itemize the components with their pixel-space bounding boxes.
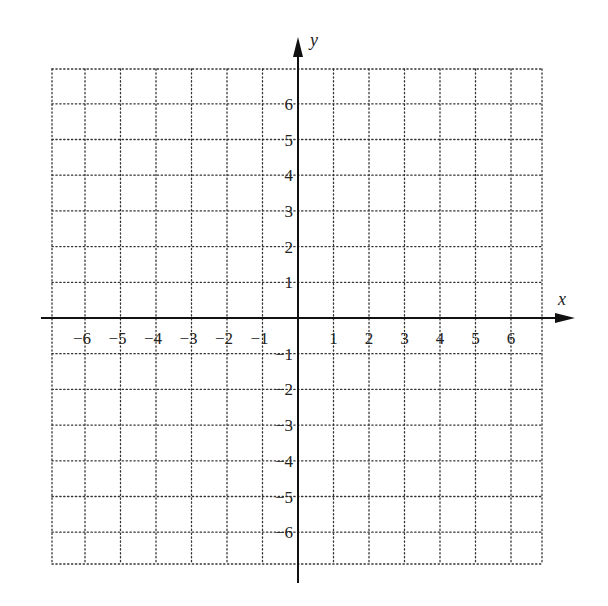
y-tick-label: −5 bbox=[275, 488, 293, 507]
x-tick-label: −2 bbox=[215, 329, 233, 348]
x-tick-labels: −6−5−4−3−2−1123456 bbox=[73, 329, 515, 348]
y-axis-arrow-icon bbox=[293, 37, 303, 57]
x-tick-label: −4 bbox=[144, 329, 163, 348]
x-axis-label: x bbox=[557, 289, 566, 309]
x-axis-arrow-icon bbox=[555, 313, 575, 323]
x-tick-label: −5 bbox=[108, 329, 126, 348]
coordinate-plane: −6−5−4−3−2−1123456 654321−1−2−3−4−5−6 x … bbox=[0, 0, 608, 606]
x-tick-label: 2 bbox=[365, 329, 374, 348]
x-tick-label: 5 bbox=[471, 329, 480, 348]
y-tick-label: 5 bbox=[285, 131, 294, 150]
y-tick-label: 3 bbox=[285, 202, 294, 221]
y-tick-label: −3 bbox=[275, 416, 293, 435]
x-tick-label: −1 bbox=[250, 329, 268, 348]
y-tick-label: 2 bbox=[285, 238, 294, 257]
x-tick-label: 6 bbox=[507, 329, 516, 348]
x-tick-label: 3 bbox=[400, 329, 409, 348]
y-tick-label: 4 bbox=[285, 166, 294, 185]
y-tick-label: −1 bbox=[275, 345, 293, 364]
y-tick-label: 1 bbox=[285, 273, 294, 292]
x-tick-label: 1 bbox=[329, 329, 338, 348]
x-tick-label: −6 bbox=[73, 329, 91, 348]
axes bbox=[41, 37, 575, 583]
y-axis-label: y bbox=[308, 30, 318, 50]
y-tick-label: 6 bbox=[285, 95, 294, 114]
y-tick-label: −4 bbox=[275, 452, 294, 471]
y-tick-label: −2 bbox=[275, 380, 293, 399]
x-tick-label: 4 bbox=[436, 329, 445, 348]
y-tick-label: −6 bbox=[275, 523, 293, 542]
x-tick-label: −3 bbox=[179, 329, 197, 348]
